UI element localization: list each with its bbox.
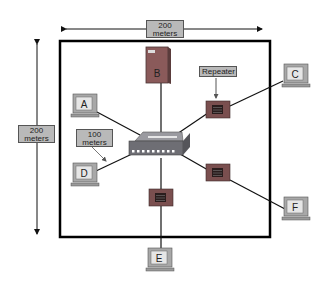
node-label-b: B — [154, 68, 161, 79]
node-label-c: C — [291, 69, 298, 80]
server-b[interactable]: B — [146, 47, 171, 84]
node-label-d: D — [80, 168, 87, 179]
node-label-e: E — [156, 253, 163, 264]
workstation-a[interactable]: A — [71, 94, 99, 117]
server-badge — [148, 50, 155, 53]
link-hub-r2 — [180, 154, 208, 170]
repeater-3[interactable] — [149, 189, 173, 206]
segment-length-unit: meters — [79, 139, 110, 147]
server-side — [168, 47, 171, 84]
hub-ports — [132, 150, 175, 153]
workstation-f[interactable]: F — [282, 197, 310, 220]
link-r1-c — [230, 81, 283, 106]
workstation-e[interactable]: E — [146, 248, 174, 271]
segment-pointer-arrow — [92, 147, 106, 161]
repeater-label: Repeater — [199, 66, 237, 77]
link-r2-f — [230, 180, 285, 209]
node-label-a: A — [81, 99, 88, 110]
vertical-dimension-label: 200 meters — [18, 125, 55, 143]
repeater-1[interactable] — [206, 101, 230, 118]
workstation-c[interactable]: C — [282, 64, 310, 87]
workstation-d[interactable]: D — [71, 163, 99, 186]
hub-front — [129, 141, 183, 155]
hub[interactable] — [129, 132, 190, 155]
links — [96, 81, 285, 248]
horizontal-dimension-label: 200 meters — [146, 20, 184, 38]
repeater-2[interactable] — [206, 164, 230, 181]
network-diagram: B — [0, 0, 327, 287]
node-label-f: F — [292, 202, 298, 213]
segment-length-label: 100 meters — [76, 129, 113, 147]
horizontal-dimension-unit: meters — [149, 30, 181, 38]
vertical-dimension-unit: meters — [21, 135, 52, 143]
hub-right — [183, 133, 190, 155]
